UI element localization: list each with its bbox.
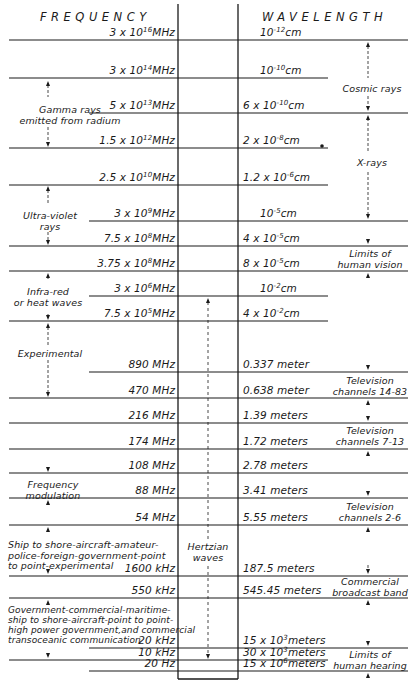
frequency-value: 3 x 109MHz <box>114 208 175 219</box>
band-commercial-broadcast: Commercial broadcast band <box>328 577 412 598</box>
wavelength-value: 2.78 meters <box>243 460 308 471</box>
frequency-value: 470 MHz <box>128 385 175 396</box>
wavelength-value: 10-5cm <box>260 208 297 219</box>
wavelength-value: 187.5 meters <box>243 563 315 574</box>
frequency-value: 550 kHz <box>131 585 175 596</box>
wavelength-value: 0.337 meter <box>243 359 309 370</box>
frequency-value: 54 MHz <box>135 512 175 523</box>
wavelength-value: 1.39 meters <box>243 410 308 421</box>
wavelength-value: 5.55 meters <box>243 512 308 523</box>
band-frequency-modulation: Frequency modulation <box>18 480 88 501</box>
frequency-value: 7.5 x 108MHz <box>104 233 175 244</box>
band-experimental: Experimental <box>10 349 90 360</box>
wavelength-value: 4 x 10-5cm <box>243 233 300 244</box>
band-government-commercial: Government-commercial-maritime- ship to … <box>8 605 195 645</box>
band-x-rays: X-rays <box>346 158 398 169</box>
band-human-hearing: Limits of human hearing <box>330 650 410 671</box>
frequency-value: 890 MHz <box>128 359 175 370</box>
wavelength-value: 10-10cm <box>260 65 302 76</box>
wavelength-value: 1.2 x 10-6cm <box>243 172 310 183</box>
band-tv-14-83: Television channels 14-83 <box>330 376 410 397</box>
frequency-value: 3 x 1016MHz <box>110 27 175 38</box>
wavelength-value: 1.72 meters <box>243 436 308 447</box>
wavelength-header: WAVELENGTH <box>262 10 387 24</box>
frequency-value: 7.5 x 105MHz <box>104 308 175 319</box>
band-tv-7-13: Television channels 7-13 <box>330 426 410 447</box>
frequency-header: FREQUENCY <box>40 10 151 24</box>
frequency-value: 88 MHz <box>135 485 175 496</box>
frequency-value: 3 x 106MHz <box>114 283 175 294</box>
wavelength-value: 2 x 10-8cm <box>243 135 300 146</box>
frequency-value: 3 x 1014MHz <box>110 65 175 76</box>
band-cosmic-rays: Cosmic rays <box>336 84 408 95</box>
wavelength-value: 3.41 meters <box>243 485 308 496</box>
wavelength-value: 15 x 103meters <box>243 635 326 646</box>
frequency-value: 20 Hz <box>144 658 175 669</box>
wavelength-value: 4 x 10-2cm <box>243 308 300 319</box>
band-ship-to-shore: Ship to shore-aircraft-amateur- police-f… <box>8 540 165 572</box>
frequency-value: 3.75 x 108MHz <box>97 258 175 269</box>
wavelength-value: 6 x 10-10cm <box>243 100 304 111</box>
band-tv-2-6: Television channels 2-6 <box>330 502 410 523</box>
band-gamma-rays: Gamma rays emitted from radium <box>10 105 130 126</box>
frequency-value: 108 MHz <box>128 460 175 471</box>
wavelength-value: 10-2cm <box>260 283 297 294</box>
wavelength-value: 8 x 10-5cm <box>243 258 300 269</box>
band-ultra-violet: Ultra-violet rays <box>10 211 90 232</box>
band-human-vision: Limits of human vision <box>330 249 410 270</box>
spectrum-diagram: FREQUENCY WAVELENGTH 3 x 1016MHz10-12cm3… <box>0 0 416 683</box>
wavelength-value: 545.45 meters <box>243 585 321 596</box>
frequency-value: 216 MHz <box>128 410 175 421</box>
frequency-value: 2.5 x 1010MHz <box>99 172 175 183</box>
wavelength-value: 30 x 103meters <box>243 647 326 658</box>
band-infra-red: Infra-red or heat waves <box>2 287 94 308</box>
wavelength-value: 0.638 meter <box>243 385 309 396</box>
band-hertzian-waves: Hertzian waves <box>180 542 236 563</box>
wavelength-value: 10-12cm <box>260 27 302 38</box>
wavelength-value: 15 x 106meters <box>243 658 326 669</box>
frequency-value: 1.5 x 1012MHz <box>99 135 175 146</box>
frequency-value: 174 MHz <box>128 436 175 447</box>
frequency-value: 10 kHz <box>138 647 175 658</box>
